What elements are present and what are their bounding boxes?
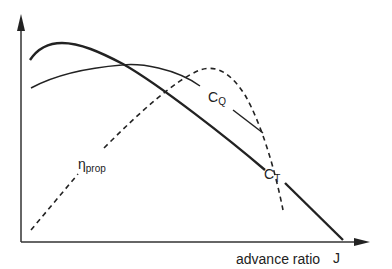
ct-curve-tail: [285, 183, 343, 240]
eta-prop-label: ηprop: [78, 157, 106, 174]
cq-label: CQ: [208, 90, 226, 107]
diagram-canvas: [0, 0, 392, 269]
eta-prop-curve: [31, 174, 78, 230]
y-axis: [17, 14, 25, 242]
x-axis-label: advance ratio: [236, 252, 320, 266]
ct-label: CT: [264, 167, 280, 184]
ct-curve: [30, 43, 265, 170]
cq-curve-tail: [233, 110, 263, 133]
propeller-performance-diagram: CQ CT ηprop advance ratio J: [0, 0, 392, 269]
x-axis-symbol: J: [333, 251, 340, 265]
y-axis-arrow-icon: [17, 14, 25, 31]
eta-prop-curve-upper: [104, 68, 283, 210]
x-axis: [21, 238, 370, 246]
x-axis-arrow-icon: [354, 238, 370, 246]
